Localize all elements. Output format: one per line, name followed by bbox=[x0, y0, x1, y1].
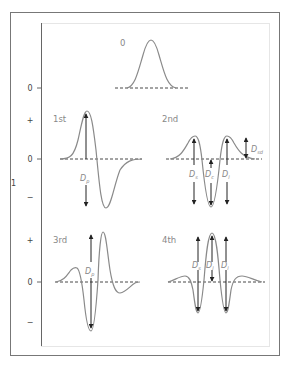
tick-label: 0 bbox=[27, 278, 32, 287]
panel-zeroth: 0 bbox=[115, 38, 190, 88]
third-derivative-curve bbox=[56, 232, 140, 331]
panel-second: 2nd Ds Dc Dl Dsd bbox=[162, 114, 264, 207]
panel-label: 0 bbox=[120, 38, 125, 48]
dsd-label: Dsd bbox=[251, 145, 264, 155]
fourth-derivative-curve bbox=[168, 233, 262, 313]
gaussian-derivatives-diagram: 0 + 0 − + 0 − 1 0 1st Dp 2nd bbox=[0, 0, 290, 366]
axis-ticks bbox=[37, 88, 41, 282]
dl-label: Dl bbox=[221, 261, 229, 271]
dc-label: Dc bbox=[205, 170, 214, 180]
gaussian-curve bbox=[127, 40, 176, 88]
second-derivative-curve bbox=[170, 136, 255, 207]
dp-label: Dp bbox=[80, 174, 89, 185]
dp-label: Dp bbox=[85, 267, 94, 278]
panel-fourth: 4th Ds Dl Dl bbox=[162, 233, 265, 313]
panel-label: 2nd bbox=[162, 114, 178, 124]
panel-label: 4th bbox=[162, 235, 176, 245]
outer-frame bbox=[11, 13, 280, 356]
tick-label: 0 bbox=[27, 155, 32, 164]
dl-label: Dl bbox=[222, 170, 230, 180]
dl-label: Dl bbox=[206, 261, 214, 271]
inner-frame bbox=[42, 24, 270, 347]
axis-label: 1 bbox=[11, 179, 16, 188]
ds-label: Ds bbox=[192, 261, 201, 271]
tick-label: − bbox=[27, 318, 34, 327]
tick-label: + bbox=[27, 236, 34, 245]
panel-third: 3rd Dp bbox=[53, 232, 140, 331]
tick-label: 0 bbox=[27, 84, 32, 93]
tick-label: − bbox=[27, 193, 34, 202]
axis-tick-labels: 0 + 0 − + 0 − 1 bbox=[11, 84, 33, 327]
panel-label: 3rd bbox=[53, 235, 67, 245]
panel-first: 1st Dp bbox=[53, 111, 142, 208]
tick-label: + bbox=[27, 116, 34, 125]
panel-label: 1st bbox=[53, 114, 67, 124]
first-derivative-curve bbox=[60, 111, 142, 208]
ds-label: Ds bbox=[189, 170, 198, 180]
